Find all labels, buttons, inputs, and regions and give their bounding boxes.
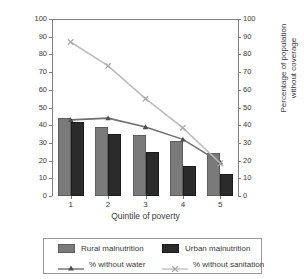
legend-label-urban: Urban malnutrition bbox=[185, 244, 250, 253]
chart-figure: Percentage of child malnutrition Percent… bbox=[0, 0, 304, 279]
y-tick-label-right: 60 bbox=[243, 86, 265, 94]
y-tick-label-left: 90 bbox=[25, 33, 47, 41]
legend-line-water bbox=[58, 260, 84, 270]
legend-line-sanitation bbox=[162, 260, 188, 270]
legend-label-sanitation: % without sanitation bbox=[193, 260, 264, 269]
y-tick-left bbox=[49, 196, 52, 197]
legend-label-rural: Rural malnutrition bbox=[81, 244, 144, 253]
y-axis-title-right: Percentage of population without coverag… bbox=[279, 0, 299, 143]
marker-sanitation-q1 bbox=[68, 39, 73, 44]
legend-item-water: % without water bbox=[58, 257, 145, 272]
y-tick-label-left: 0 bbox=[25, 192, 47, 200]
x-tick-label: 4 bbox=[173, 201, 193, 209]
marker-sanitation-q4 bbox=[180, 125, 185, 130]
y-tick-label-left: 10 bbox=[25, 174, 47, 182]
x-tick bbox=[108, 196, 109, 199]
y-tick-label-left: 50 bbox=[25, 104, 47, 112]
y-tick-label-right: 70 bbox=[243, 68, 265, 76]
line-sanitation bbox=[71, 42, 221, 163]
x-tick bbox=[220, 196, 221, 199]
y-axis-title-right-line2: without coverage bbox=[289, 38, 298, 98]
y-tick-label-left: 70 bbox=[25, 68, 47, 76]
legend-swatch-urban bbox=[162, 244, 179, 253]
legend-row-lines: % without water % without sanitation bbox=[44, 257, 263, 272]
x-tick bbox=[183, 196, 184, 199]
y-tick-label-right: 10 bbox=[243, 174, 265, 182]
line-series-overlay bbox=[52, 19, 239, 196]
legend-row-bars: Rural malnutrition Urban malnutrition bbox=[44, 241, 263, 256]
x-tick-label: 2 bbox=[98, 201, 118, 209]
marker-sanitation-q2 bbox=[105, 63, 110, 68]
chart-legend: Rural malnutrition Urban malnutrition % … bbox=[43, 238, 262, 274]
x-tick bbox=[71, 196, 72, 199]
legend-item-sanitation: % without sanitation bbox=[162, 257, 264, 272]
y-axis-title-right-line1: Percentage of population bbox=[279, 24, 288, 113]
y-tick-right bbox=[238, 196, 241, 197]
y-tick-label-right: 80 bbox=[243, 50, 265, 58]
x-tick-label: 5 bbox=[210, 201, 230, 209]
x-tick bbox=[146, 196, 147, 199]
legend-item-rural: Rural malnutrition bbox=[58, 241, 144, 256]
y-tick-label-right: 20 bbox=[243, 157, 265, 165]
x-tick-label: 1 bbox=[61, 201, 81, 209]
legend-label-water: % without water bbox=[89, 260, 145, 269]
y-tick-label-left: 60 bbox=[25, 86, 47, 94]
x-tick-label: 3 bbox=[136, 201, 156, 209]
y-tick-label-right: 0 bbox=[243, 192, 265, 200]
legend-item-urban: Urban malnutrition bbox=[162, 241, 250, 256]
y-tick-label-right: 30 bbox=[243, 139, 265, 147]
y-tick-label-left: 80 bbox=[25, 50, 47, 58]
legend-swatch-rural bbox=[58, 244, 75, 253]
x-axis-title: Quintile of poverty bbox=[52, 211, 239, 221]
y-tick-label-right: 40 bbox=[243, 121, 265, 129]
plot-area: 0102030405060708090100 01020304050607080… bbox=[52, 19, 239, 196]
y-tick-label-right: 90 bbox=[243, 33, 265, 41]
y-tick-label-right: 50 bbox=[243, 104, 265, 112]
y-tick-label-left: 40 bbox=[25, 121, 47, 129]
marker-sanitation-q3 bbox=[143, 96, 148, 101]
y-tick-label-left: 20 bbox=[25, 157, 47, 165]
y-tick-label-left: 30 bbox=[25, 139, 47, 147]
y-tick-label-right: 100 bbox=[243, 15, 265, 23]
y-tick-label-left: 100 bbox=[25, 15, 47, 23]
